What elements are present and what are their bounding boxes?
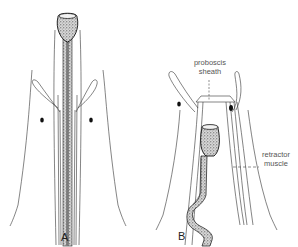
proboscis-illustration — [0, 0, 298, 247]
panel-b-right-eye — [229, 105, 233, 111]
proboscis-sheath-label-line2: sheath — [188, 67, 232, 76]
retractor-muscle-label-line2: muscle — [256, 159, 296, 168]
panel-b-left-tentacle — [169, 72, 198, 112]
proboscis-sheath-label-line1: proboscis — [188, 58, 232, 67]
panel-a-body-right-outline — [103, 70, 126, 226]
panel-a-right-tentacle — [76, 80, 97, 112]
panel-a-label: A — [61, 232, 68, 243]
panel-a-body-left-outline — [10, 70, 32, 226]
panel-a-left-eye — [40, 117, 44, 122]
panel-a-right-eye — [89, 117, 93, 122]
figure-canvas: proboscis sheath retractor muscle A B — [0, 0, 298, 247]
panel-b-proboscis-stalk — [187, 156, 212, 246]
panel-b-body-right-outline — [248, 110, 277, 230]
panel-b-right-tentacle — [232, 72, 241, 112]
retractor-muscle-label-line1: retractor — [256, 150, 296, 159]
proboscis-sheath-label: proboscis sheath — [188, 58, 232, 76]
panel-b-label: B — [178, 231, 185, 242]
retractor-muscle-label: retractor muscle — [256, 150, 296, 168]
panel-a-left-tentacle — [32, 80, 60, 112]
panel-b-body-left-outline — [156, 110, 180, 230]
panel-b-left-eye — [177, 101, 181, 106]
